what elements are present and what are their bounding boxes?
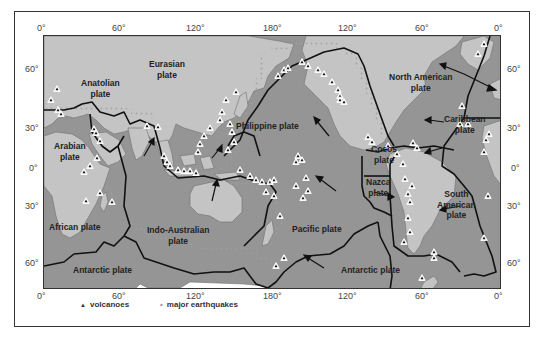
left-axis-tick: 0°: [29, 164, 38, 173]
plate-label-caribbean: Caribbeanplate: [444, 114, 486, 135]
right-axis-tick: 60°: [507, 259, 521, 268]
volcano-legend-icon: ▲: [80, 302, 86, 308]
plate-label-pacific: Pacific plate: [292, 224, 342, 235]
bottom-axis-tick: 0°: [494, 292, 503, 301]
bottom-axis-tick: 0°: [37, 292, 46, 301]
left-axis-tick: 60°: [25, 65, 39, 74]
world-plate-map: Eurasianplate Anatolianplate Arabianplat…: [43, 35, 501, 289]
plate-label-north-american: North Americanplate: [389, 72, 452, 93]
plate-label-arabian: Arabianplate: [54, 141, 86, 162]
right-axis-tick: 30°: [507, 202, 521, 211]
plate-label-anatolian: Anatolianplate: [81, 78, 120, 99]
bottom-axis-tick: 120°: [338, 292, 357, 301]
plate-label-philippine: Philippine plate: [236, 121, 299, 132]
plate-label-cocos: Cocosplate: [371, 144, 397, 165]
plate-label-eurasian: Eurasianplate: [149, 59, 185, 80]
plate-label-indo-australian: Indo-Australianplate: [147, 225, 209, 246]
earthquake-legend-icon: •: [160, 300, 163, 309]
plate-label-antarctic-west: Antarctic plate: [73, 265, 132, 276]
right-axis-tick: 0°: [511, 164, 520, 173]
legend-volcanoes: ▲volcanoes: [80, 300, 129, 309]
top-axis-tick: 0°: [494, 24, 503, 33]
top-axis-tick: 120°: [338, 24, 357, 33]
earthquake-legend-label: major earthquakes: [167, 300, 238, 309]
left-axis-tick: 60°: [25, 259, 39, 268]
left-axis-tick: 30°: [25, 124, 39, 133]
volcano-legend-label: volcanoes: [90, 300, 129, 309]
right-axis-tick: 60°: [507, 65, 521, 74]
top-axis-tick: 120°: [186, 24, 205, 33]
top-axis-tick: 0°: [37, 24, 46, 33]
top-axis-tick: 60°: [112, 24, 126, 33]
plate-label-african: African plate: [49, 222, 101, 233]
left-axis-tick: 30°: [25, 202, 39, 211]
plate-label-south-american: SouthAmericanplate: [437, 189, 476, 221]
bottom-axis-tick: 180°: [263, 292, 282, 301]
plate-label-antarctic-east: Antarctic plate: [341, 265, 400, 276]
plate-label-nazca: Nazcaplate: [366, 177, 391, 198]
right-axis-tick: 30°: [507, 124, 521, 133]
top-axis-tick: 60°: [415, 24, 429, 33]
legend-earthquakes: •major earthquakes: [160, 300, 238, 309]
top-axis-tick: 180°: [263, 24, 282, 33]
bottom-axis-tick: 60°: [415, 292, 429, 301]
